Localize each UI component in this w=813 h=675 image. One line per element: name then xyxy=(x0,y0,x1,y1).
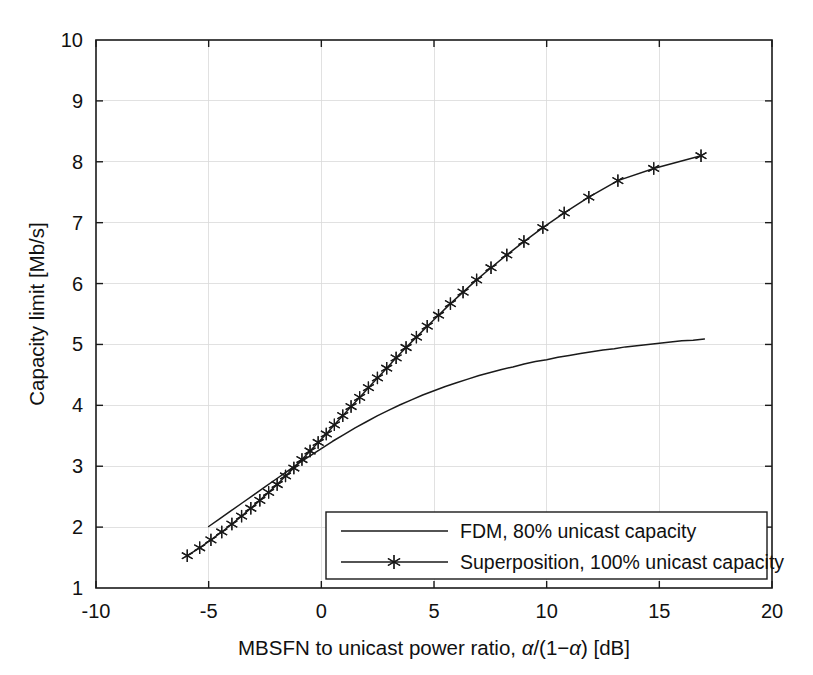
capacity-limit-chart: 10987654321 -10-505101520 Capacity limit… xyxy=(0,0,813,675)
x-axis-title: MBSFN to unicast power ratio, α/(1−α) [d… xyxy=(238,636,630,659)
x-tick-label: -10 xyxy=(82,600,111,622)
y-tick-label: 7 xyxy=(72,212,83,234)
legend-label-superposition: Superposition, 100% unicast capacity xyxy=(460,551,784,573)
x-tick-label: -5 xyxy=(200,600,218,622)
x-axis-title-mid: /(1− xyxy=(533,636,569,659)
y-axis-title: Capacity limit [Mb/s] xyxy=(25,222,48,405)
legend-label-fdm: FDM, 80% unicast capacity xyxy=(460,520,697,542)
y-tick-label: 10 xyxy=(61,29,83,51)
y-tick-label: 6 xyxy=(72,273,83,295)
x-tick-label: 15 xyxy=(648,600,670,622)
y-tick-label: 4 xyxy=(72,394,83,416)
x-tick-label: 10 xyxy=(536,600,558,622)
y-tick-label: 2 xyxy=(72,516,83,538)
x-tick-label: 5 xyxy=(428,600,439,622)
y-tick-label: 5 xyxy=(72,333,83,355)
x-tick-label: 0 xyxy=(316,600,327,622)
y-tick-label: 9 xyxy=(72,90,83,112)
x-tick-label: 20 xyxy=(761,600,783,622)
figure-container: 10987654321 -10-505101520 Capacity limit… xyxy=(0,0,813,675)
y-tick-label: 3 xyxy=(72,455,83,477)
y-tick-label: 1 xyxy=(72,577,83,599)
y-tick-label: 8 xyxy=(72,151,83,173)
x-axis-title-part1: MBSFN to unicast power ratio, xyxy=(238,636,522,659)
x-axis-title-part2: ) [dB] xyxy=(581,636,630,659)
legend[interactable]: FDM, 80% unicast capacity Superposition,… xyxy=(326,512,784,579)
